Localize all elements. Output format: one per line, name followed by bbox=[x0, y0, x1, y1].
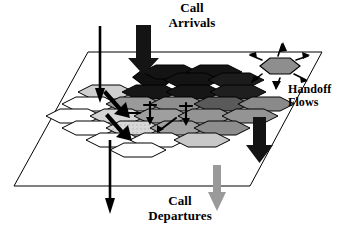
inset-hex-cell bbox=[260, 58, 300, 74]
call-departures-line-2: Departures bbox=[120, 209, 240, 224]
handoff-flows-line-1: Handoff bbox=[288, 83, 348, 96]
call-arrivals-line-2: Arrivals bbox=[144, 16, 240, 31]
call-arrivals-line-1: Call bbox=[144, 1, 240, 16]
call-departures-label: Call Departures bbox=[120, 194, 240, 223]
handoff-flows-label: Handoff Flows bbox=[288, 83, 348, 110]
call-departures-line-1: Call bbox=[120, 194, 240, 209]
figure-canvas: Call Arrivals Call Departures Handoff Fl… bbox=[0, 0, 349, 227]
handoff-flows-line-2: Flows bbox=[288, 96, 348, 109]
call-arrivals-label: Call Arrivals bbox=[144, 1, 240, 30]
handoff-down-arrow bbox=[246, 117, 273, 163]
